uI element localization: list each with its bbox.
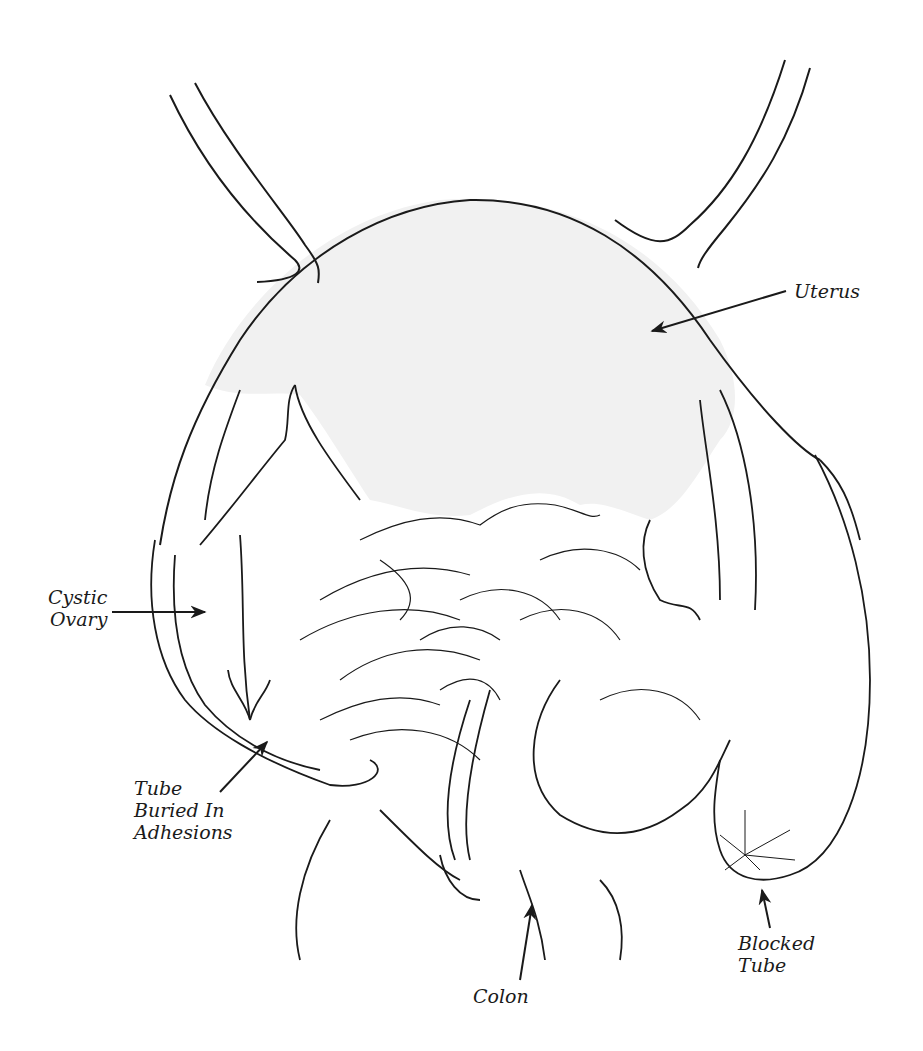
label-line: Ovary bbox=[48, 608, 107, 630]
adhesions-center bbox=[300, 504, 700, 760]
anatomy-illustration bbox=[0, 0, 923, 1051]
label-line: Blocked bbox=[738, 932, 815, 954]
label-colon: Colon bbox=[473, 985, 529, 1007]
label-tube-buried-in-adhesions: Tube Buried In Adhesions bbox=[134, 777, 233, 843]
label-uterus: Uterus bbox=[794, 280, 860, 302]
label-line: Cystic bbox=[48, 586, 107, 608]
label-line: Colon bbox=[473, 985, 529, 1007]
label-line: Tube bbox=[134, 777, 233, 799]
label-blocked-tube: Blocked Tube bbox=[738, 932, 815, 976]
blocked-tube-end bbox=[720, 810, 795, 870]
colon-arrow bbox=[520, 905, 532, 980]
label-line: Tube bbox=[738, 954, 815, 976]
blocked-tube-arrow bbox=[762, 890, 770, 928]
label-cystic-ovary: Cystic Ovary bbox=[48, 586, 107, 630]
uterus-body bbox=[160, 199, 820, 545]
label-line: Adhesions bbox=[134, 821, 233, 843]
label-line: Buried In bbox=[134, 799, 233, 821]
colon-loop bbox=[296, 680, 730, 960]
label-line: Uterus bbox=[794, 280, 860, 302]
